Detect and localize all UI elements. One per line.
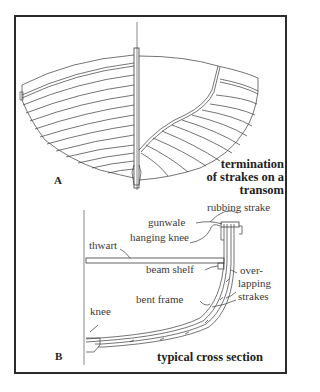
label-knee: knee: [90, 306, 111, 317]
label-thwart: thwart: [89, 240, 117, 251]
overlapping-strakes-leader-2: [226, 292, 236, 298]
panel-b-caption: typical cross section: [157, 351, 263, 364]
label-beam-shelf: beam shelf: [146, 264, 194, 275]
label-over: over-: [240, 265, 263, 276]
label-gunwale: gunwale: [148, 217, 185, 228]
thwart-leader: [120, 249, 130, 258]
label-strakes: strakes: [238, 291, 269, 302]
panel-a-caption: termination of strakes on a transom: [207, 158, 284, 197]
gunwale-leader: [196, 222, 222, 224]
label-rubbing-strake: rubbing strake: [207, 202, 270, 213]
hanging-knee-leader: [190, 225, 220, 243]
bent-frame-leader: [200, 301, 210, 305]
beam-shelf-leader: [205, 266, 218, 270]
label-bent-frame: bent frame: [136, 294, 183, 305]
caption-line-3: transom: [207, 184, 284, 197]
panel-a-letter: A: [54, 175, 62, 186]
label-hanging-knee: hanging knee: [130, 232, 189, 243]
panel-b-letter: B: [55, 351, 62, 362]
label-lapping: lapping: [238, 278, 271, 289]
knee-leader: [90, 325, 98, 332]
